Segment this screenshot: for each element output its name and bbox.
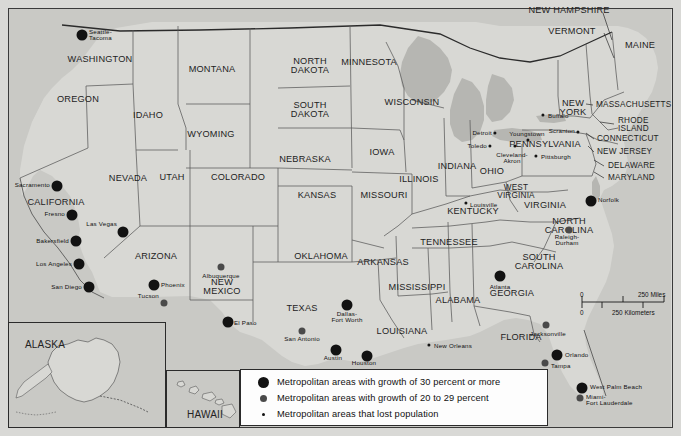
- scale-bar: 0 250 Miles 0 250 Kilometers: [578, 285, 674, 321]
- legend-label: Metropolitan areas with growth of 20 to …: [277, 393, 489, 403]
- legend-swatch-small-black-dot: [249, 413, 277, 416]
- city-marker: [342, 300, 353, 311]
- city-marker: [577, 383, 588, 394]
- legend-label: Metropolitan areas with growth of 30 per…: [277, 377, 500, 387]
- legend-swatch-medium-gray-dot: [249, 395, 277, 402]
- scale-miles-zero: 0: [580, 291, 584, 298]
- city-marker: [67, 210, 78, 221]
- city-marker: [223, 317, 234, 328]
- legend-label: Metropolitan areas that lost population: [277, 409, 439, 419]
- city-marker: [586, 196, 597, 207]
- city-marker: [299, 328, 306, 335]
- scale-km-zero: 0: [580, 309, 584, 316]
- alaska-inset-frame: [8, 322, 166, 428]
- scale-km-label: 250 Kilometers: [612, 309, 655, 316]
- map-legend: Metropolitan areas with growth of 30 per…: [240, 369, 548, 426]
- city-marker: [331, 345, 342, 356]
- city-marker: [77, 30, 88, 41]
- city-marker: [362, 351, 373, 362]
- city-marker: [118, 227, 129, 238]
- city-marker: [495, 271, 506, 282]
- scale-miles-label: 250 Miles: [638, 291, 665, 298]
- city-marker: [577, 395, 584, 402]
- legend-swatch-large-black-dot: [249, 377, 277, 388]
- city-marker: [74, 259, 85, 270]
- city-marker: [52, 181, 63, 192]
- legend-row: Metropolitan areas with growth of 20 to …: [249, 390, 541, 406]
- city-marker: [218, 264, 225, 271]
- city-marker: [542, 360, 549, 367]
- legend-row: Metropolitan areas that lost population: [249, 406, 541, 422]
- city-marker: [566, 227, 573, 234]
- hawaii-inset-frame: [166, 370, 240, 428]
- city-marker: [543, 322, 550, 329]
- city-marker: [149, 280, 160, 291]
- city-marker: [552, 350, 563, 361]
- city-marker: [71, 236, 82, 247]
- city-marker: [161, 300, 168, 307]
- us-metro-growth-map: WASHINGTONOREGONIDAHOMONTANAWYOMINGNORTH…: [0, 0, 681, 436]
- legend-row: Metropolitan areas with growth of 30 per…: [249, 374, 541, 390]
- city-marker: [84, 282, 95, 293]
